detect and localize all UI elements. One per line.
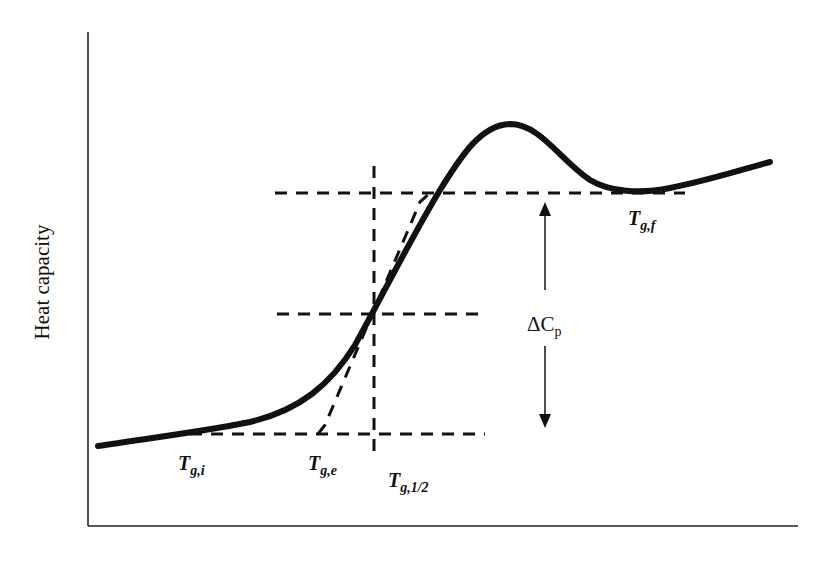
tg-initial-label: Tg,i [178,452,205,478]
heat-capacity-curve [98,124,770,446]
tg-final-label: Tg,f [628,207,657,233]
tg-midpoint-label: Tg,1/2 [388,469,429,495]
arrow-down-icon [539,414,551,428]
y-axis-label: Heat capacity [30,224,54,339]
delta-cp-label: ΔCp [527,312,562,339]
tg-extrapolated-label: Tg,e [308,452,337,478]
glass-transition-diagram: Heat capacity ΔCp Tg,i Tg,e Tg,1/2 Tg,f [0,0,818,566]
arrow-up-icon [539,202,551,216]
